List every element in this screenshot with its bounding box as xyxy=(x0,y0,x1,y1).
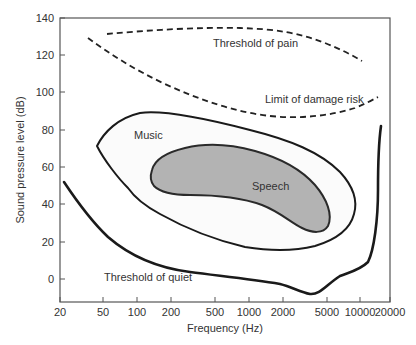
y-tick-label: 140 xyxy=(36,12,54,24)
y-tick-label: 60 xyxy=(42,161,54,173)
y-axis-title: Sound pressure level (dB) xyxy=(14,96,26,223)
x-tick-label: 1000 xyxy=(237,306,261,318)
hearing-range-chart: 140120100806040200 205010020050010002000… xyxy=(0,0,416,345)
x-axis: 20501002005001000200050001000020000 xyxy=(54,297,405,318)
x-tick-label: 200 xyxy=(162,306,180,318)
x-tick-label: 100 xyxy=(128,306,146,318)
x-axis-title: Frequency (Hz) xyxy=(187,322,263,334)
x-tick-label: 500 xyxy=(206,306,224,318)
y-tick-label: 40 xyxy=(42,198,54,210)
label-limit-of-damage-risk: Limit of damage risk xyxy=(265,93,364,105)
x-tick-label: 10000 xyxy=(345,306,376,318)
y-tick-label: 0 xyxy=(48,273,54,285)
y-tick-label: 100 xyxy=(36,86,54,98)
x-tick-label: 50 xyxy=(97,306,109,318)
label-threshold-of-pain: Threshold of pain xyxy=(213,37,298,49)
y-tick-label: 20 xyxy=(42,236,54,248)
x-tick-label: 20000 xyxy=(375,306,406,318)
label-music: Music xyxy=(134,129,163,141)
y-tick-label: 120 xyxy=(36,49,54,61)
label-threshold-of-quiet: Threshold of quiet xyxy=(104,271,192,283)
x-tick-label: 2000 xyxy=(271,306,295,318)
x-tick-label: 20 xyxy=(54,306,66,318)
x-tick-label: 5000 xyxy=(315,306,339,318)
y-tick-label: 80 xyxy=(42,124,54,136)
limit-of-damage-risk-curve xyxy=(88,38,378,117)
label-speech: Speech xyxy=(252,180,289,192)
